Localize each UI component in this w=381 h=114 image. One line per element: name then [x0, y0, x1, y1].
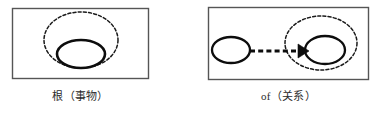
- of-source-solid-ellipse: [212, 37, 250, 63]
- of-panel: [209, 8, 369, 80]
- of-target-solid-ellipse: [305, 36, 345, 64]
- of-panel-caption: of（关系）: [208, 89, 369, 103]
- root-inner-solid-ellipse: [57, 40, 105, 68]
- root-panel: [13, 9, 149, 79]
- figure-root: 根（事物） of（关系）: [0, 0, 381, 114]
- root-panel-caption: 根（事物）: [12, 89, 149, 103]
